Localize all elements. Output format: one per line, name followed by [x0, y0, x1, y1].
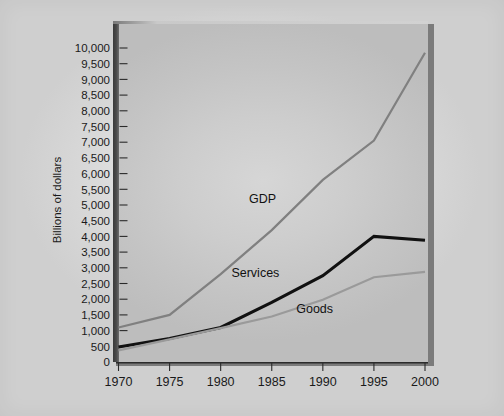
x-tick-label: 1995: [360, 375, 388, 389]
chart-screenshot: 05001,0001,5002,0002,5003,0003,5004,0004…: [0, 0, 504, 416]
y-tick-label: 4,500: [81, 215, 110, 227]
series-label-goods: Goods: [296, 302, 333, 316]
y-tick-label: 2,500: [81, 278, 110, 290]
y-tick-label: 1,000: [81, 325, 110, 337]
y-tick-label: 5,000: [81, 199, 110, 211]
y-tick-label: 9,500: [81, 58, 110, 70]
y-tick-label: 500: [91, 341, 110, 353]
y-tick-label: 6,500: [81, 152, 110, 164]
line-chart: 05001,0001,5002,0002,5003,0003,5004,0004…: [0, 0, 504, 416]
y-tick-label: 7,500: [81, 121, 110, 133]
y-tick-label: 0: [104, 356, 110, 368]
y-tick-label: 1,500: [81, 309, 110, 321]
series-line-gdp: [119, 53, 426, 328]
y-tick-label: 7,000: [81, 136, 110, 148]
x-tick-label: 1985: [258, 375, 286, 389]
y-tick-label: 2,000: [81, 293, 110, 305]
x-tick-label: 1990: [309, 375, 337, 389]
x-tick-label: 1970: [105, 375, 133, 389]
y-tick-label: 3,500: [81, 246, 110, 258]
series-label-services: Services: [231, 266, 279, 280]
y-axis-ticks: [120, 48, 128, 346]
y-tick-label: 5,500: [81, 184, 110, 196]
y-axis-tick-labels: 05001,0001,5002,0002,5003,0003,5004,0004…: [75, 42, 110, 368]
y-tick-label: 8,500: [81, 89, 110, 101]
y-axis-title: Billions of dollars: [51, 157, 63, 244]
x-tick-label: 1980: [207, 375, 235, 389]
y-tick-label: 10,000: [75, 42, 110, 54]
y-tick-label: 4,000: [81, 231, 110, 243]
y-tick-label: 3,000: [81, 262, 110, 274]
y-tick-label: 6,000: [81, 168, 110, 180]
x-tick-label: 2000: [411, 375, 439, 389]
x-axis-tick-labels: 1970197519801985199019952000: [105, 375, 439, 389]
x-tick-label: 1975: [156, 375, 184, 389]
series-line-services: [119, 236, 426, 347]
y-tick-label: 9,000: [81, 74, 110, 86]
y-tick-label: 8,000: [81, 105, 110, 117]
series-label-gdp: GDP: [249, 192, 276, 206]
x-axis-ticks: [119, 363, 426, 371]
